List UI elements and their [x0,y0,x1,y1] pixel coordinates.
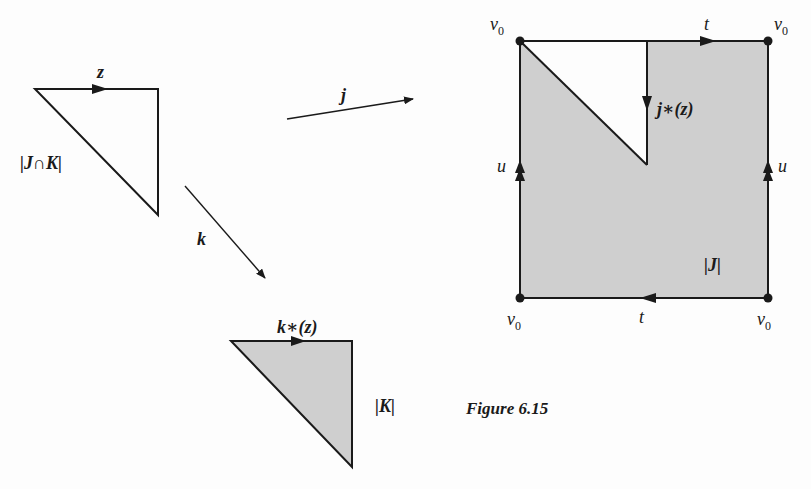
edge-label-u-left: u [497,157,506,175]
figure-6-15: z |J∩K| j k v0 v0 v0 v0 t t u u j∗(z) |J… [0,0,811,489]
vertex-bottom-left [516,294,525,303]
map-label-k: k [197,230,206,248]
label-j-complex: |J| [704,256,721,274]
label-j-cap-k: |J∩K| [20,154,62,172]
j-complex-square [515,36,773,303]
edge-label-u-right: u [778,157,787,175]
edge-label-kstar: k∗(z) [277,318,317,336]
edge-z-arrow-icon [92,84,108,94]
edge-label-jstar: j∗(z) [657,100,693,118]
vertex-label-top-right: v0 [774,15,788,37]
edge-label-t-bottom: t [639,308,644,326]
k-complex-triangle [231,336,352,467]
diagram-canvas [0,0,811,489]
map-label-j: j [341,86,346,104]
vertex-top-right [764,37,773,46]
intersection-triangle [35,84,158,215]
label-k-complex: |K| [375,397,395,415]
vertex-top-left [516,37,525,46]
vertex-bottom-right [764,294,773,303]
edge-label-z: z [97,63,104,81]
map-j-arrow [287,99,413,119]
vertex-label-bottom-right: v0 [757,310,771,332]
edge-label-t-top: t [704,15,709,33]
figure-caption: Figure 6.15 [466,399,548,419]
vertex-label-bottom-left: v0 [507,310,521,332]
vertex-label-top-left: v0 [490,15,504,37]
